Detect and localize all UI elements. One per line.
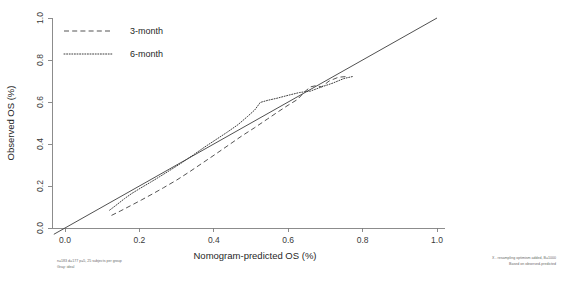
x-axis-ticks: 0.00.20.40.60.81.0 — [59, 228, 443, 245]
y-tick-label: 0.2 — [35, 180, 45, 192]
y-tick-label: 0.6 — [35, 96, 45, 108]
footnote-bottom-right-line2: Based on observed-predicted — [509, 262, 556, 266]
x-tick-label: 0.6 — [282, 235, 294, 245]
y-axis-ticks: 0.00.20.40.60.81.0 — [35, 12, 52, 234]
footnote-bottom-right-line1: X - resampling optimism added, B=1000 — [492, 256, 556, 260]
legend: 3-month 6-month — [64, 26, 163, 59]
y-tick-label: 0.0 — [35, 222, 45, 234]
y-axis: 0.00.20.40.60.81.0 — [35, 12, 52, 234]
y-axis-title: Observed OS (%) — [5, 86, 16, 161]
x-axis-title: Nomogram-predicted OS (%) — [193, 250, 316, 261]
x-axis: 0.00.20.40.60.81.0 — [52, 228, 445, 245]
footnote-bottom-left-line2: Gray: ideal — [57, 265, 75, 269]
calibration-chart-svg: 0.00.20.40.60.81.0 0.00.20.40.60.81.0 No… — [0, 0, 564, 286]
x-tick-label: 0.4 — [208, 235, 220, 245]
x-tick-label: 0.2 — [133, 235, 145, 245]
y-tick-label: 0.4 — [35, 138, 45, 150]
x-tick-label: 1.0 — [431, 235, 443, 245]
series-line-3-month — [112, 76, 349, 215]
y-tick-label: 1.0 — [35, 12, 45, 24]
y-tick-label: 0.8 — [35, 54, 45, 66]
calibration-plot: 0.00.20.40.60.81.0 0.00.20.40.60.81.0 No… — [0, 0, 564, 286]
footnote-bottom-left-line1: n=183 d=177 p=5, 25 subjects per group — [57, 259, 122, 263]
ideal-reference-line — [54, 18, 437, 234]
legend-label-6-month: 6-month — [130, 49, 163, 59]
x-tick-label: 0.8 — [357, 235, 369, 245]
x-tick-label: 0.0 — [59, 235, 71, 245]
legend-label-3-month: 3-month — [130, 26, 163, 36]
